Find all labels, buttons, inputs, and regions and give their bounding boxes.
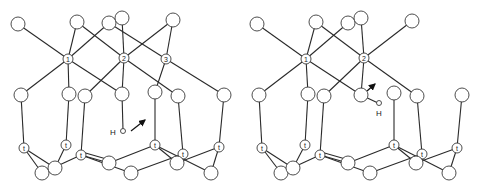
svg-text:t: t: [218, 144, 220, 151]
right-panel: 1 2 H t t t t t t: [250, 11, 469, 180]
svg-text:3: 3: [164, 56, 168, 63]
silicon-atom-3: 3: [161, 54, 171, 64]
svg-text:t: t: [23, 145, 25, 152]
silicon-atom-t: t: [61, 140, 71, 150]
svg-text:2: 2: [362, 55, 366, 62]
oxygen-atom: [102, 156, 116, 170]
oxygen-atom: [301, 87, 315, 101]
svg-text:t: t: [65, 142, 67, 149]
svg-text:H: H: [376, 109, 382, 118]
svg-text:t: t: [154, 142, 156, 149]
motion-arrow-icon: [131, 120, 145, 131]
oxygen-atom: [354, 11, 368, 25]
left-panel: 1 2 3 H t t: [11, 11, 231, 180]
motion-arrow-icon: [367, 84, 375, 91]
oxygen-atom: [286, 161, 300, 175]
oxygen-atom: [455, 88, 469, 102]
silicon-atom-t: t: [214, 142, 224, 152]
oxygen-atom: [35, 166, 49, 180]
svg-text:t: t: [421, 151, 423, 158]
oxygen-atom: [252, 88, 266, 102]
oxygen-atom: [217, 88, 231, 102]
oxygen-atom: [341, 16, 355, 30]
oxygen-atom: [170, 156, 184, 170]
svg-text:2: 2: [122, 55, 126, 62]
oxygen-atom: [78, 89, 92, 103]
oxygen-atom: [115, 11, 129, 25]
oxygen-atom: [204, 166, 218, 180]
svg-text:t: t: [456, 145, 458, 152]
svg-text:1: 1: [66, 56, 70, 63]
oxygen-atom: [317, 89, 331, 103]
hydroxyl-oxygen-atom: [354, 88, 368, 102]
svg-text:t: t: [393, 142, 395, 149]
oxygen-atom: [14, 88, 28, 102]
diagram-canvas: 1 2 3 H t t: [0, 0, 477, 191]
oxygen-atom: [166, 13, 180, 27]
oxygen-atom: [387, 86, 401, 100]
silicon-atom-t: t: [315, 150, 325, 160]
silicon-atom-1: 1: [301, 54, 311, 64]
hydrogen-atom: H: [376, 101, 382, 118]
hydrogen-atom: H: [110, 128, 125, 137]
svg-text:t: t: [319, 152, 321, 159]
silicate-cluster-figure: 1 2 3 H t t: [0, 0, 477, 191]
silicon-atom-t: t: [452, 143, 462, 153]
oxygen-atom: [124, 166, 138, 180]
oxygen-atom: [62, 87, 76, 101]
silicon-atom-1: 1: [63, 54, 73, 64]
silicon-atom-2: 2: [119, 53, 129, 63]
hydroxyl-oxygen-atom: [115, 87, 129, 101]
silicon-atom-t: t: [389, 140, 399, 150]
svg-text:H: H: [110, 128, 116, 137]
silicon-atom-t: t: [150, 140, 160, 150]
oxygen-atom: [442, 166, 456, 180]
oxygen-atom: [70, 15, 84, 29]
oxygen-atom: [405, 14, 419, 28]
svg-text:t: t: [182, 151, 184, 158]
svg-text:t: t: [80, 152, 82, 159]
silicon-atom-2: 2: [359, 53, 369, 63]
oxygen-atom: [309, 15, 323, 29]
oxygen-atom: [171, 89, 185, 103]
oxygen-atom: [148, 85, 162, 99]
oxygen-atom: [410, 89, 424, 103]
svg-text:t: t: [261, 145, 263, 152]
svg-text:t: t: [304, 142, 306, 149]
silicon-atom-t: t: [257, 143, 267, 153]
oxygen-atom: [341, 156, 355, 170]
silicon-atom-t: t: [19, 143, 29, 153]
oxygen-atom: [102, 16, 116, 30]
silicon-atom-t: t: [76, 150, 86, 160]
oxygen-atom: [250, 17, 264, 31]
svg-text:1: 1: [304, 56, 308, 63]
oxygen-atom: [363, 166, 377, 180]
oxygen-atom: [48, 161, 62, 175]
oxygen-atom: [11, 17, 25, 31]
oxygen-atom: [409, 156, 423, 170]
silicon-atom-t: t: [300, 140, 310, 150]
